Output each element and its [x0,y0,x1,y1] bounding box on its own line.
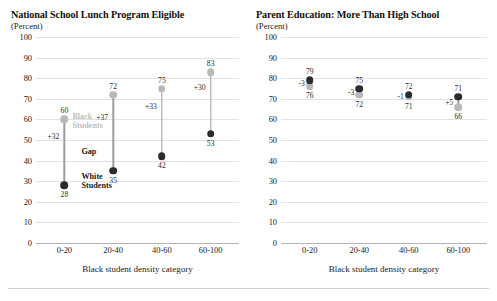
gap-label: +33 [145,102,157,111]
data-label-upper: 72 [109,81,117,90]
data-point-white-students [355,85,363,93]
x-axis-tick: 60-100 [446,246,470,255]
chart-panel-left: National School Lunch Program Eligible (… [0,0,248,301]
data-label-lower: 66 [454,112,462,121]
data-point-white-students [158,153,166,161]
data-point-white-students [306,76,314,84]
y-axis-tick: 40 [24,156,32,165]
x-axis-tick: 0-20 [57,246,72,255]
gridline [36,37,239,38]
connector-line [112,95,113,171]
data-label-upper: 79 [306,67,314,76]
y-axis-tick: 50 [269,136,277,145]
page-title-right: Parent Education: More Than High School [256,9,439,20]
data-point-white-students [61,182,69,190]
data-label-upper: 75 [158,75,166,84]
gap-label: -3 [298,79,304,88]
y-axis-tick: 80 [269,74,277,83]
x-axis-tick: 40-60 [152,246,172,255]
x-axis-tick: 40-60 [399,246,419,255]
gap-label: +5 [445,97,453,106]
x-axis-tick: 20-40 [103,246,123,255]
connector-line [161,89,162,157]
y-axis-tick: 90 [24,53,32,62]
data-label-lower: 53 [207,138,215,147]
plot-area-left: Black student density category 010203040… [36,37,239,243]
gridline [36,161,239,162]
y-axis-tick: 10 [24,218,32,227]
plot-area-right: Black student density category 010203040… [281,37,487,243]
gap-label: -3 [348,87,354,96]
data-label-upper: 72 [405,81,413,90]
data-label-lower: 76 [306,91,314,100]
data-label-lower: 71 [405,101,413,110]
gap-label: +32 [47,132,59,141]
gridline [36,222,239,223]
y-axis-tick: 30 [24,177,32,186]
figure-container: National School Lunch Program Eligible (… [0,0,497,301]
x-axis-tick: 0-20 [302,246,317,255]
data-point-black-students [158,85,166,93]
data-label-lower: 72 [355,99,363,108]
data-point-white-students [405,91,413,99]
y-axis-tick: 20 [24,197,32,206]
data-label-upper: 75 [355,75,363,84]
y-axis-tick: 100 [19,33,32,42]
legend-white-students: WhiteStudents [81,173,112,191]
gridline [281,161,487,162]
data-point-white-students [207,130,215,138]
footer-divider [8,288,489,289]
y-axis-tick: 0 [28,239,32,248]
data-point-black-students [207,68,215,76]
gridline [281,58,487,59]
y-axis-tick: 60 [24,115,32,124]
data-label-lower: 42 [158,161,166,170]
gridline [36,99,239,100]
gap-label: -1 [397,91,403,100]
y-axis-tick: 100 [264,33,277,42]
data-point-black-students [454,103,462,111]
x-axis-label: Black student density category [82,264,193,274]
legend-gap: Gap [81,148,96,157]
gridline [281,222,487,223]
legend-black-students-line: Students [72,122,103,131]
data-label-upper: 60 [61,106,69,115]
gridline [281,202,487,203]
chart-subtitle: (Percent) [11,21,43,31]
y-axis-tick: 10 [269,218,277,227]
y-axis-tick: 70 [24,94,32,103]
y-axis-tick: 20 [269,197,277,206]
gridline [281,181,487,182]
data-label-lower: 28 [61,190,69,199]
y-axis-tick: 70 [269,94,277,103]
page-title: National School Lunch Program Eligible [11,9,184,20]
gridline [36,202,239,203]
y-axis-tick: 80 [24,74,32,83]
x-axis-label-right: Black student density category [329,264,440,274]
chart-subtitle-right: (Percent) [256,21,288,31]
data-point-black-students [109,91,117,99]
gridline [36,78,239,79]
data-point-white-students [454,93,462,101]
data-point-black-students [61,116,69,124]
connector-line [64,119,65,185]
gap-label: +30 [194,82,206,91]
chart-panel-right: Parent Education: More Than High School … [248,0,497,301]
legend-gap-line: Gap [81,148,96,157]
data-label-upper: 71 [454,83,462,92]
data-label-upper: 83 [207,59,215,68]
y-axis-tick: 90 [269,53,277,62]
y-axis-tick: 60 [269,115,277,124]
x-axis-tick: 20-40 [349,246,369,255]
y-axis-tick: 50 [24,136,32,145]
connector-line [210,72,211,134]
gridline [281,243,487,244]
y-axis-tick: 40 [269,156,277,165]
gridline [36,243,239,244]
y-axis-tick: 30 [269,177,277,186]
gridline [281,140,487,141]
y-axis-tick: 0 [273,239,277,248]
gridline [281,37,487,38]
legend-black-students: BlackStudents [72,113,103,131]
x-axis-tick: 60-100 [199,246,223,255]
